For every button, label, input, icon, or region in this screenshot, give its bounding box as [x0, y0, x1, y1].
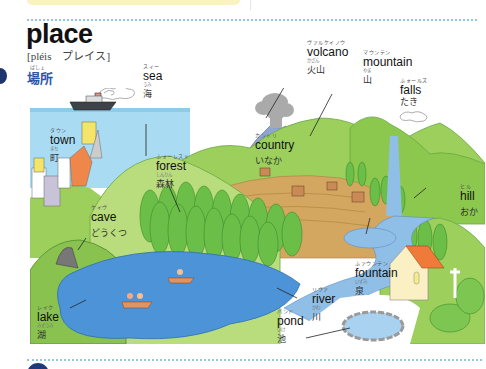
label-lake: レイク lake みずうみ 湖 — [37, 305, 59, 340]
label-volcano: ヴァルケイノウ volcano かざん 火山 — [307, 40, 348, 75]
label-town: タウン town まち 町 — [50, 128, 75, 163]
top-divider — [250, 0, 251, 10]
label-falls: ふォールズ falls たき — [400, 78, 428, 107]
label-forest: ふォーレスト forest しんりん 森林 — [156, 154, 189, 189]
dotted-rule-bottom — [27, 359, 482, 361]
label-fountain: ふァウンテン fountain いずみ 泉 — [355, 261, 398, 296]
pond — [343, 312, 403, 340]
section-marker — [27, 363, 49, 369]
label-river: リヴァ river かわ 川 — [312, 287, 335, 322]
japanese-meaning: 場所 — [27, 68, 53, 87]
fountain-pool — [344, 228, 396, 248]
label-hill: ヒル hill おか — [460, 184, 478, 217]
label-sea: スィー sea うみ 海 — [143, 64, 162, 99]
pronunciation: [pléis プレイス] — [27, 50, 110, 62]
label-pond: パンド pond いけ 池 — [277, 309, 304, 344]
label-cave: ケイヴ cave どうくつ — [91, 205, 127, 238]
dotted-rule-top — [27, 19, 477, 21]
top-note-box — [27, 0, 240, 5]
label-country: カントリ country いなか — [255, 133, 294, 166]
entry-word: place — [26, 19, 93, 49]
page-marker — [0, 68, 7, 84]
ship-icon — [70, 90, 116, 110]
